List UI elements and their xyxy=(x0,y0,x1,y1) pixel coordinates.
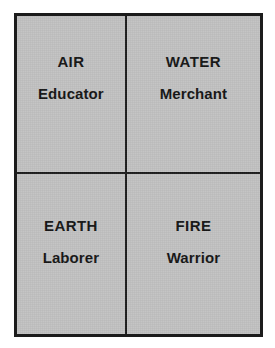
quadrant-cell-water-text: WATER Merchant xyxy=(160,54,227,101)
page-root: AIR Educator WATER Merchant EARTH Labore… xyxy=(0,0,275,348)
quadrant-cell-earth-text: EARTH Laborer xyxy=(43,218,100,265)
quadrant-cell-air: AIR Educator xyxy=(17,16,127,174)
element-label-air: AIR xyxy=(38,54,104,69)
element-label-water: WATER xyxy=(160,54,227,69)
quadrant-cell-earth: EARTH Laborer xyxy=(17,174,127,334)
role-label-merchant: Merchant xyxy=(160,86,227,101)
element-label-fire: FIRE xyxy=(167,218,221,233)
element-label-earth: EARTH xyxy=(43,218,100,233)
role-label-warrior: Warrior xyxy=(167,250,221,265)
quadrant-cell-water: WATER Merchant xyxy=(127,16,260,174)
quadrant-cell-air-text: AIR Educator xyxy=(38,54,104,101)
role-label-laborer: Laborer xyxy=(43,250,100,265)
role-label-educator: Educator xyxy=(38,86,104,101)
quadrant-cell-fire: FIRE Warrior xyxy=(127,174,260,334)
quadrant-cell-fire-text: FIRE Warrior xyxy=(167,218,221,265)
quadrant-chart: AIR Educator WATER Merchant EARTH Labore… xyxy=(14,13,263,337)
